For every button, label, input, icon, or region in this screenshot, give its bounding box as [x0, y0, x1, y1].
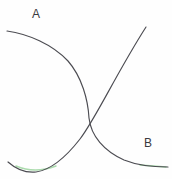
curve-a-label: A	[32, 8, 40, 20]
curves-canvas	[0, 0, 172, 179]
curve-diagram: A B	[0, 0, 172, 179]
curve-b-label: B	[144, 137, 152, 149]
curve-b-path	[8, 27, 146, 172]
